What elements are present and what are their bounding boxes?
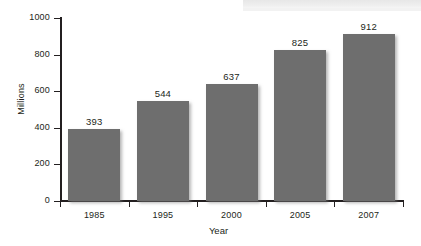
bar-value-label: 637: [202, 71, 262, 82]
bar-chart: 02004006008001000 19851995200020052007 3…: [0, 0, 421, 246]
y-axis-tick: [54, 164, 60, 165]
y-axis-tick: [54, 18, 60, 19]
x-axis-tick-label: 2000: [202, 210, 262, 220]
y-axis-tick-label: 0: [0, 195, 50, 205]
y-axis-tick: [54, 128, 60, 129]
y-axis-tick-label: 1000: [0, 12, 50, 22]
bar-value-label: 544: [133, 88, 193, 99]
y-axis-tick-label: 800: [0, 49, 50, 59]
bar-value-label: 393: [64, 116, 124, 127]
bar-value-label: 912: [339, 21, 399, 32]
bar: [68, 129, 120, 201]
y-axis-line: [60, 17, 62, 202]
bar: [206, 84, 258, 201]
bar: [137, 101, 189, 201]
x-axis-tick: [334, 202, 335, 207]
bar: [274, 50, 326, 201]
y-axis-title: Millions: [16, 69, 26, 129]
x-axis-tick-label: 1985: [64, 210, 124, 220]
x-axis-tick: [129, 202, 130, 207]
x-axis-tick: [60, 202, 61, 207]
x-axis-title: Year: [0, 225, 421, 236]
bar-value-label: 825: [270, 37, 330, 48]
x-axis-tick-label: 2005: [270, 210, 330, 220]
y-axis-tick: [54, 55, 60, 56]
x-axis-tick: [197, 202, 198, 207]
y-axis-tick: [54, 91, 60, 92]
x-axis-tick-label: 2007: [339, 210, 399, 220]
scan-artifact-band-lower: [243, 8, 421, 11]
x-axis-tick-label: 1995: [133, 210, 193, 220]
x-axis-tick: [266, 202, 267, 207]
bar: [343, 34, 395, 201]
x-axis-tick: [403, 202, 404, 207]
y-axis-tick-label: 200: [0, 158, 50, 168]
x-axis-title-text: Year: [209, 225, 228, 236]
